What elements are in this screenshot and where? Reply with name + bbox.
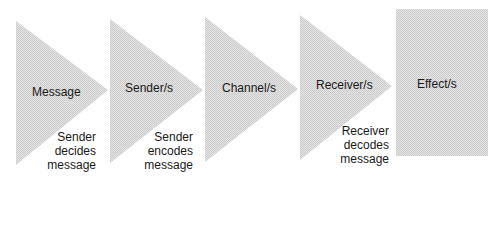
stage-label-receiver: Receiver/s	[316, 78, 373, 92]
stage-label-channel: Channel/s	[222, 81, 276, 95]
note-line: Receiver	[340, 124, 389, 138]
note-line: Sender	[144, 130, 193, 144]
note-line: message	[144, 158, 193, 172]
note-line: message	[340, 152, 389, 166]
note-receiver-decodes: Receiver decodes message	[340, 124, 389, 166]
note-sender-encodes: Sender encodes message	[144, 130, 193, 172]
note-line: message	[47, 158, 96, 172]
note-line: encodes	[144, 144, 193, 158]
stage-label-sender: Sender/s	[125, 81, 173, 95]
note-line: Sender	[47, 130, 96, 144]
note-sender-decides: Sender decides message	[47, 130, 96, 172]
note-line: decides	[47, 144, 96, 158]
note-line: decodes	[340, 138, 389, 152]
stage-label-effect: Effect/s	[417, 77, 457, 91]
stage-label-message: Message	[32, 85, 81, 99]
